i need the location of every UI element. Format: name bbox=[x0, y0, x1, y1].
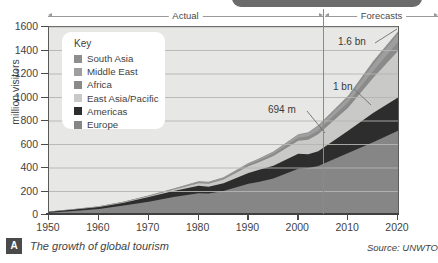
x-tick-mark bbox=[297, 214, 298, 220]
y-tick-mark bbox=[41, 167, 48, 168]
legend-item-label: East Asia/Pacific bbox=[87, 93, 159, 104]
x-tick-mark bbox=[48, 214, 49, 220]
legend-item: East Asia/Pacific bbox=[74, 92, 165, 105]
figure-source: Source: UNWTO bbox=[367, 242, 438, 253]
span-forecast-arrow-right-icon bbox=[434, 13, 438, 17]
y-tick-mark bbox=[41, 191, 48, 192]
legend-swatch bbox=[74, 121, 82, 129]
y-tick-label: 800 bbox=[6, 115, 38, 125]
span-actual: Actual bbox=[48, 9, 323, 23]
x-tick-mark bbox=[148, 214, 149, 220]
legend-item: South Asia bbox=[74, 52, 165, 65]
figure-badge: A bbox=[6, 238, 22, 254]
x-tick-label: 2020 bbox=[377, 221, 417, 233]
legend-items: South AsiaMiddle EastAfricaEast Asia/Pac… bbox=[62, 52, 165, 131]
leader-line bbox=[375, 29, 397, 43]
legend-item: Americas bbox=[74, 105, 165, 118]
legend-item-label: Americas bbox=[87, 106, 127, 117]
y-tick-mark bbox=[41, 144, 48, 145]
legend-swatch bbox=[74, 68, 82, 76]
x-tick-label: 2000 bbox=[277, 221, 317, 233]
y-tick-label: 1600 bbox=[6, 21, 38, 31]
x-tick-label: 1970 bbox=[128, 221, 168, 233]
legend-key: Key South AsiaMiddle EastAfricaEast Asia… bbox=[62, 32, 165, 129]
x-tick-mark bbox=[198, 214, 199, 220]
y-tick-mark bbox=[41, 120, 48, 121]
y-tick-mark bbox=[41, 50, 48, 51]
annotation-mid: 1 bn bbox=[333, 81, 352, 92]
legend-item-label: Europe bbox=[87, 119, 118, 130]
figure-caption: A The growth of global tourism Source: U… bbox=[6, 238, 438, 258]
y-tick-label: 1000 bbox=[6, 92, 38, 102]
annotation-peak: 1.6 bn bbox=[338, 36, 366, 47]
legend-swatch bbox=[74, 81, 82, 89]
x-tick-label: 1950 bbox=[28, 221, 68, 233]
span-forecast-label: Forecasts bbox=[357, 9, 407, 23]
x-tick-label: 1990 bbox=[227, 221, 267, 233]
x-tick-label: 1960 bbox=[78, 221, 118, 233]
figure-badge-letter: A bbox=[7, 239, 21, 253]
x-tick-label: 1980 bbox=[178, 221, 218, 233]
legend-title: Key bbox=[74, 38, 165, 49]
y-tick-mark bbox=[41, 26, 48, 27]
legend-swatch bbox=[74, 55, 82, 63]
y-tick-label: 1200 bbox=[6, 68, 38, 78]
legend-item-label: South Asia bbox=[87, 53, 133, 64]
y-tick-mark bbox=[41, 97, 48, 98]
span-forecast-arrow-left-icon bbox=[325, 13, 329, 17]
x-tick-label: 2010 bbox=[327, 221, 367, 233]
y-tick-label: 200 bbox=[6, 186, 38, 196]
y-tick-label: 1400 bbox=[6, 45, 38, 55]
forecast-divider bbox=[323, 9, 324, 214]
span-actual-arrow-left-icon bbox=[48, 13, 52, 17]
legend-item: Africa bbox=[74, 78, 165, 91]
figure-global-tourism: Actual Forecasts million visitors 020040… bbox=[0, 0, 438, 263]
span-actual-label: Actual bbox=[168, 9, 202, 23]
y-tick-mark bbox=[41, 73, 48, 74]
x-tick-mark bbox=[347, 214, 348, 220]
figure-caption-text: The growth of global tourism bbox=[30, 240, 169, 252]
y-tick-label: 400 bbox=[6, 162, 38, 172]
legend-swatch bbox=[74, 107, 82, 115]
legend-item: Europe bbox=[74, 118, 165, 131]
legend-item: Middle East bbox=[74, 65, 165, 78]
legend-swatch bbox=[74, 94, 82, 102]
legend-item-label: Middle East bbox=[87, 66, 138, 77]
decorative-top-tab bbox=[232, 0, 422, 7]
x-tick-mark bbox=[98, 214, 99, 220]
annotation-current: 694 m bbox=[268, 104, 296, 115]
y-tick-label: 600 bbox=[6, 139, 38, 149]
span-forecast: Forecasts bbox=[325, 9, 438, 23]
legend-item-label: Africa bbox=[87, 79, 112, 90]
leader-line bbox=[354, 89, 371, 105]
y-tick-label: 0 bbox=[6, 209, 38, 219]
x-tick-mark bbox=[397, 214, 398, 220]
x-tick-mark bbox=[247, 214, 248, 220]
